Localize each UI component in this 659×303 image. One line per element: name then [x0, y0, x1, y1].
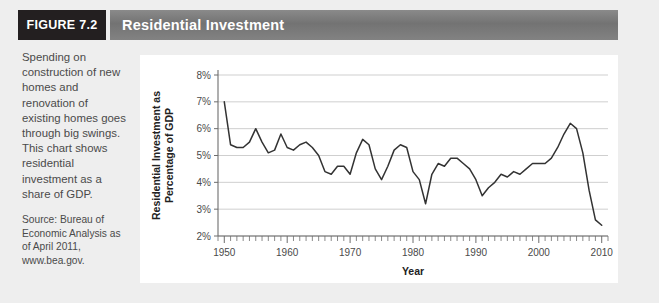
figure-page: FIGURE 7.2 Residential Investment Spendi… — [0, 0, 659, 303]
line-chart: 8%7%6%5%4%3%2%19501960197019801990200020… — [140, 55, 618, 283]
y-tick-label: 8% — [197, 70, 212, 81]
y-tick-label: 7% — [197, 96, 212, 107]
figure-title-bar: Residential Investment — [110, 10, 618, 40]
data-line-series — [224, 102, 601, 225]
figure-number-label: FIGURE 7.2 — [26, 18, 97, 32]
caption-body: Spending on construction of new homes an… — [22, 50, 126, 202]
y-axis-title-line: Percentage of GDP — [163, 108, 175, 203]
x-tick-label: 1960 — [276, 247, 299, 258]
caption-column: Spending on construction of new homes an… — [22, 50, 126, 267]
x-tick-label: 1950 — [213, 247, 236, 258]
caption-source: Source: Bureau of Economic Analysis as o… — [22, 213, 126, 267]
y-axis-title-line: Residential Investment as — [150, 91, 162, 220]
x-axis-title: Year — [402, 265, 424, 277]
figure-title: Residential Investment — [122, 17, 284, 33]
y-tick-label: 2% — [197, 231, 212, 242]
x-tick-label: 1990 — [465, 247, 488, 258]
y-tick-label: 3% — [197, 204, 212, 215]
y-tick-label: 5% — [197, 150, 212, 161]
y-tick-label: 4% — [197, 177, 212, 188]
figure-header: FIGURE 7.2 Residential Investment — [18, 10, 618, 40]
x-tick-label: 2000 — [528, 247, 551, 258]
x-tick-label: 1970 — [339, 247, 362, 258]
figure-number-badge: FIGURE 7.2 — [18, 10, 106, 40]
x-tick-label: 2010 — [591, 247, 614, 258]
plot-area: 8%7%6%5%4%3%2%19501960197019801990200020… — [140, 55, 618, 283]
chart-panel: 8%7%6%5%4%3%2%19501960197019801990200020… — [140, 55, 618, 283]
y-tick-label: 6% — [197, 123, 212, 134]
x-tick-label: 1980 — [402, 247, 425, 258]
